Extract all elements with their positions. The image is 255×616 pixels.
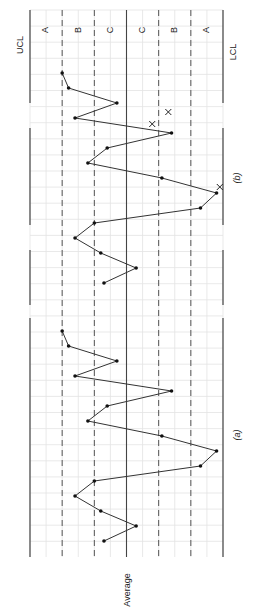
data-point: [102, 281, 106, 285]
chart-labels: ABCCBAUCLLCLAverage(a)(b): [15, 26, 242, 606]
data-point: [160, 434, 164, 438]
data-point: [60, 329, 64, 333]
data-point: [160, 176, 164, 180]
data-point: [115, 101, 119, 105]
lcl-label: LCL: [228, 44, 238, 61]
control-chart: ABCCBAUCLLCLAverage(a)(b): [0, 0, 255, 616]
zone-label: B: [73, 27, 83, 33]
zone-label: A: [40, 27, 50, 33]
data-point: [73, 374, 77, 378]
data-point: [86, 419, 90, 423]
center-label: Average: [122, 573, 132, 606]
data-point: [215, 191, 219, 195]
x-marker: [149, 121, 155, 127]
data-point: [73, 116, 77, 120]
panel-label: (a): [232, 429, 242, 440]
zone-label: C: [137, 26, 147, 33]
data-point: [134, 266, 138, 270]
data-point: [93, 221, 97, 225]
panel-label: (b): [232, 172, 242, 183]
data-point: [86, 161, 90, 165]
data-point: [67, 344, 71, 348]
ucl-label: UCL: [15, 36, 25, 54]
x-marker: [165, 109, 171, 115]
zone-label: C: [105, 26, 115, 33]
data-series: [60, 71, 222, 543]
data-point: [67, 86, 71, 90]
data-point: [99, 251, 103, 255]
data-point: [102, 539, 106, 543]
zone-label: A: [201, 27, 211, 33]
data-point: [115, 359, 119, 363]
data-point: [170, 389, 174, 393]
data-point: [199, 464, 203, 468]
data-point: [105, 146, 109, 150]
data-point: [170, 131, 174, 135]
data-point: [199, 206, 203, 210]
data-point: [73, 236, 77, 240]
data-point: [93, 479, 97, 483]
data-point: [105, 404, 109, 408]
data-point: [73, 494, 77, 498]
data-point: [60, 71, 64, 75]
data-point: [134, 524, 138, 528]
data-point: [99, 509, 103, 513]
data-point: [215, 449, 219, 453]
zone-label: B: [169, 27, 179, 33]
